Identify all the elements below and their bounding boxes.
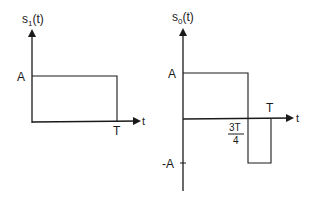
- s1-waveform: [32, 76, 117, 122]
- plot-s1: s1(t) A t T: [17, 12, 145, 138]
- s1-y-label: s1(t): [22, 12, 44, 28]
- s0-x-axis: [183, 118, 292, 119]
- s1-x-label: t: [142, 115, 145, 127]
- s1-x-axis: [32, 121, 139, 122]
- s0-x-label: t: [296, 112, 299, 124]
- s1-end-label: T: [113, 124, 121, 138]
- s1-amplitude-label: A: [17, 70, 25, 84]
- s0-neg-amplitude-label: -A: [162, 157, 174, 171]
- s0-switch-label: 3T 4: [228, 122, 244, 146]
- s0-y-label: s0(t): [172, 10, 194, 26]
- plot-s0: s0(t) A -A t T 3T 4: [162, 10, 299, 191]
- s0-pos-amplitude-label: A: [168, 67, 176, 81]
- s0-switch-denominator: 4: [233, 135, 239, 146]
- signal-waveforms-diagram: s1(t) A t T s0(t) A -A t T 3T 4: [0, 0, 312, 201]
- s0-end-label: T: [266, 101, 274, 115]
- s0-switch-numerator: 3T: [229, 122, 241, 133]
